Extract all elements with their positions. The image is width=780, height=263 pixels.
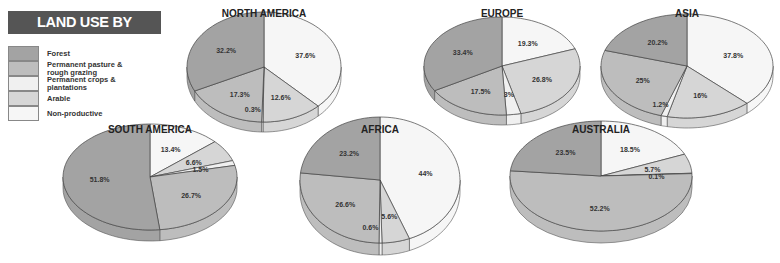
slice-label: 23.2% — [339, 150, 360, 157]
pie-australia: 18.5%5.7%0.1%52.2%23.5% — [510, 121, 692, 243]
slice-label: 0.3% — [245, 106, 262, 113]
pie-title: EUROPE — [422, 8, 582, 19]
slice-label: 6.6% — [186, 159, 203, 166]
pie-title: AUSTRALIA — [521, 124, 681, 135]
slice-label: 16% — [693, 92, 708, 99]
pie-title: ASIA — [607, 8, 767, 19]
slice-label: 52.2% — [590, 205, 611, 212]
slice-label: 5.7% — [644, 166, 661, 173]
slice-label: 23.5% — [556, 149, 577, 156]
pie-south-america: 13.4%6.6%1.5%26.7%51.8% — [63, 124, 237, 241]
slice-label: 33.4% — [453, 49, 474, 56]
slice-label: 51.8% — [90, 176, 111, 183]
pie-asia: 37.8%16%1.2%25%20.2% — [601, 14, 773, 128]
slice-label: 17.5% — [471, 88, 492, 95]
slice-label: 26.7% — [181, 192, 202, 199]
slice-label: 17.3% — [230, 91, 251, 98]
slice-label: 0.1% — [648, 173, 665, 180]
slice-label: 37.8% — [723, 52, 744, 59]
pie-europe: 19.3%26.8%3%17.5%33.4% — [424, 17, 580, 125]
pie-title: SOUTH AMERICA — [70, 124, 230, 135]
slice-label: 37.6% — [295, 52, 316, 59]
slice-label: 13.4% — [161, 146, 182, 153]
pie-north-america: 37.6%12.6%0.3%17.3%32.2% — [187, 12, 341, 132]
slice-label: 0.6% — [362, 224, 379, 231]
slice-label: 19.3% — [518, 40, 539, 47]
slice-label: 12.6% — [271, 94, 292, 101]
slice-label: 32.2% — [216, 47, 237, 54]
slice-label: 44% — [419, 170, 434, 177]
slice-label: 20.2% — [648, 39, 669, 46]
chart-root: LAND USE BY CONTINENT ForestPermanent pa… — [0, 0, 780, 263]
slice-label: 1.5% — [192, 166, 209, 173]
pie-title: NORTH AMERICA — [184, 8, 344, 19]
slice-label: 5.6% — [381, 213, 398, 220]
pie-africa: 44%5.6%0.6%26.6%23.2% — [300, 117, 460, 255]
slice-label: 25% — [636, 77, 651, 84]
slice-label: 1.2% — [653, 101, 670, 108]
slice-label: 26.6% — [335, 201, 356, 208]
slice-label: 18.5% — [620, 146, 641, 153]
slice-label: 26.8% — [532, 76, 553, 83]
pie-title: AFRICA — [300, 124, 460, 135]
slice-label: 3% — [504, 91, 515, 98]
